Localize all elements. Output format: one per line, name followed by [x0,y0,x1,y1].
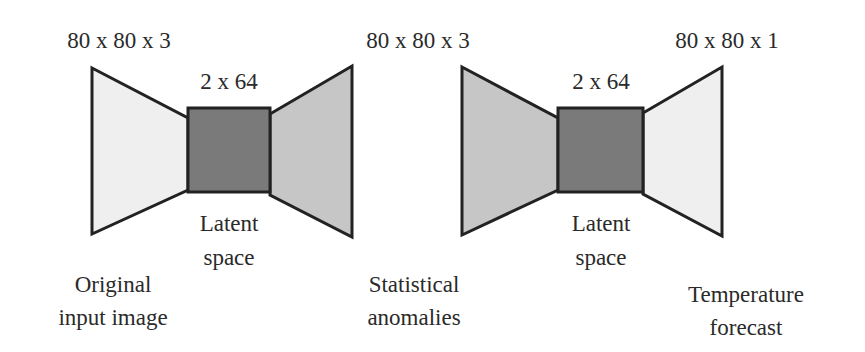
output-dimension-label-1: 80 x 80 x 3 [366,27,470,54]
statistical-anomalies-label-line1: Statistical [369,271,460,298]
latent-2-square [558,108,643,192]
encoder-1-trapezoid [92,68,188,234]
latent-space-label-2-line1: Latent [572,210,631,237]
decoder-2-trapezoid [643,67,722,236]
temperature-forecast-label-line1: Temperature [688,281,804,308]
latent-dimension-label-1: 2 x 64 [200,68,258,95]
autoencoder-diagram: 80 x 80 x 3 2 x 64 80 x 80 x 3 Latent sp… [0,0,865,352]
original-input-label-line2: input image [58,304,167,331]
temperature-forecast-label-line2: forecast [710,314,783,341]
original-input-label-line1: Original [75,271,152,298]
decoder-1-trapezoid [270,66,352,237]
latent-space-label-1-line1: Latent [200,210,259,237]
output-dimension-label-2: 80 x 80 x 1 [675,27,779,54]
input-dimension-label-1: 80 x 80 x 3 [67,27,171,54]
latent-space-label-1-line2: space [203,244,254,271]
statistical-anomalies-label-line2: anomalies [367,304,460,331]
latent-1-square [188,108,270,192]
encoder-2-trapezoid [462,67,558,235]
latent-space-label-2-line2: space [575,244,626,271]
latent-dimension-label-2: 2 x 64 [572,68,630,95]
